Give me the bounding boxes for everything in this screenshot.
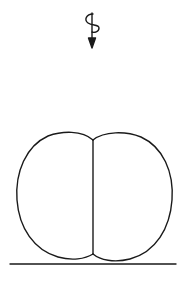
right-lobe [93, 133, 172, 261]
arrowhead [89, 38, 96, 48]
diagram-canvas [0, 0, 186, 282]
left-lobe [17, 132, 93, 259]
spiral-arrow-icon [86, 13, 99, 48]
